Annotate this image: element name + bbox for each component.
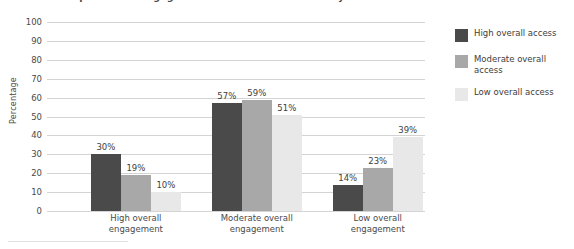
plot-area: 1009080706050403020100 30%19%10%57%59%51… <box>47 22 425 211</box>
bar-value-label: 10% <box>156 180 175 190</box>
bar: 39% <box>393 137 423 211</box>
bar-value-label: 19% <box>126 163 145 173</box>
legend-swatch-icon <box>455 88 468 101</box>
legend: High overall accessModerate overall acce… <box>455 28 570 113</box>
bar-value-label: 23% <box>368 156 387 166</box>
y-axis-tick-label: 70 <box>12 74 42 84</box>
bar-value-label: 59% <box>247 88 266 98</box>
bar-value-label: 14% <box>338 173 357 183</box>
x-axis-category-line: engagement <box>197 224 317 235</box>
bar: 30% <box>91 154 121 211</box>
y-axis-tick-label: 60 <box>12 93 42 103</box>
bar-value-label: 39% <box>398 125 417 135</box>
legend-swatch-icon <box>455 55 468 68</box>
bar: 59% <box>242 100 272 212</box>
x-axis-category-line: Moderate overall <box>197 213 317 224</box>
y-axis-tick-label: 10 <box>12 187 42 197</box>
bar: 51% <box>272 115 302 211</box>
bar: 10% <box>151 192 181 211</box>
y-axis-tick-label: 20 <box>12 168 42 178</box>
bar: 57% <box>212 103 242 211</box>
y-axis-tick-label: 90 <box>12 36 42 46</box>
x-axis-category-label: Low overallengagement <box>318 213 438 235</box>
y-axis-tick-label: 0 <box>12 206 42 216</box>
bar-value-label: 51% <box>277 103 296 113</box>
y-axis-tick-label: 30 <box>12 149 42 159</box>
legend-item[interactable]: Low overall access <box>455 87 570 101</box>
gridline <box>47 211 425 212</box>
bar-group: 14%23%39% <box>333 22 423 211</box>
bar-group: 57%59%51% <box>212 22 302 211</box>
legend-label: Low overall access <box>474 87 554 98</box>
y-axis-tick-label: 40 <box>12 130 42 140</box>
x-axis-category-line: engagement <box>76 224 196 235</box>
legend-label: High overall access <box>474 28 556 39</box>
bar-value-label: 57% <box>217 91 236 101</box>
bar-chart: Percentage 1009080706050403020100 30%19%… <box>0 0 574 249</box>
bottom-rule <box>8 241 128 242</box>
bar: 19% <box>121 175 151 211</box>
x-axis-category-line: engagement <box>318 224 438 235</box>
bar-value-label: 30% <box>96 142 115 152</box>
bar: 14% <box>333 185 363 211</box>
bar-group: 30%19%10% <box>91 22 181 211</box>
y-axis-tick-label: 100 <box>12 17 42 27</box>
legend-item[interactable]: High overall access <box>455 28 570 42</box>
legend-label: Moderate overall access <box>474 54 570 75</box>
y-axis-tick-label: 50 <box>12 112 42 122</box>
x-axis-category-line: High overall <box>76 213 196 224</box>
bar: 23% <box>363 168 393 211</box>
bars-layer: 30%19%10%57%59%51%14%23%39% <box>47 22 425 211</box>
y-axis-tick-label: 80 <box>12 55 42 65</box>
legend-item[interactable]: Moderate overall access <box>455 54 570 75</box>
x-axis-category-line: Low overall <box>318 213 438 224</box>
legend-swatch-icon <box>455 29 468 42</box>
x-axis-category-label: Moderate overallengagement <box>197 213 317 235</box>
x-axis-category-label: High overallengagement <box>76 213 196 235</box>
